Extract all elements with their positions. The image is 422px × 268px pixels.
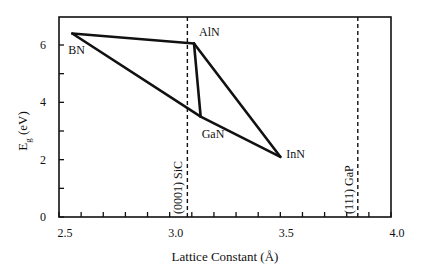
label-inn: InN [286, 147, 305, 161]
x-axis-label: Lattice Constant (Å) [172, 249, 279, 264]
alloy-lines [72, 34, 280, 157]
y-tick-label: 2 [40, 153, 46, 167]
x-tick-label: 3.5 [279, 226, 294, 240]
bandgap-vs-lattice-chart: (0001) SiC(111) GaP BNAlNGaNInN 2.53.03.… [0, 0, 422, 268]
x-tick-label: 2.5 [58, 226, 73, 240]
reference-line-label: (111) GaP [342, 165, 356, 214]
alloy-line-AlN-GaN [194, 44, 201, 117]
label-gan: GaN [202, 127, 225, 141]
alloy-line-BN-AlN [72, 34, 194, 44]
alloy-line-BN-GaN [72, 34, 200, 117]
label-aln: AlN [199, 25, 220, 39]
x-tick-label: 4.0 [390, 226, 405, 240]
y-tick-label: 4 [40, 95, 46, 109]
y-axis-label-unit: (eV) [15, 111, 30, 138]
y-tick-label: 0 [40, 210, 46, 224]
y-tick-label: 6 [40, 38, 46, 52]
y-axis-label-main: E [15, 143, 30, 151]
y-axis-label: Eg (eV) [15, 111, 33, 151]
x-tick-label: 3.0 [168, 226, 183, 240]
reference-line-label: (0001) SiC [171, 161, 185, 214]
label-bn: BN [68, 43, 85, 57]
